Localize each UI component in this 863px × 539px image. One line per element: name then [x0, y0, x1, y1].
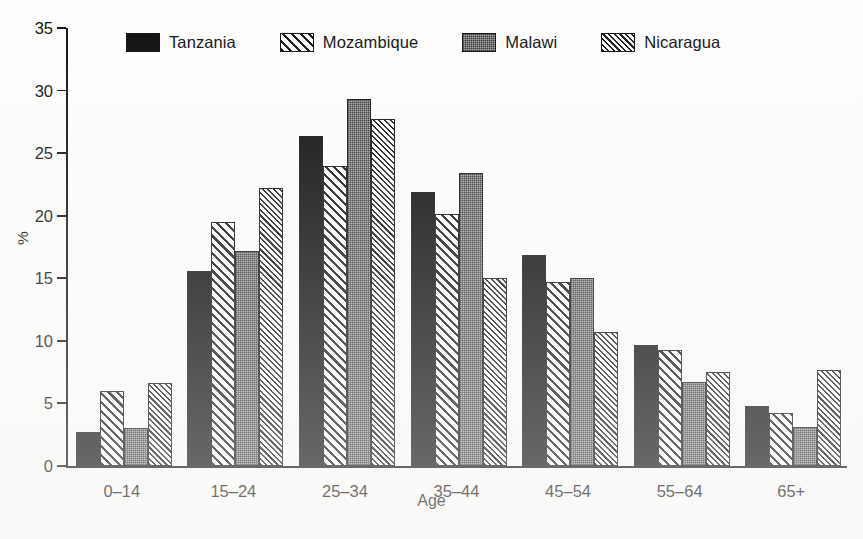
- x-axis-title: Age: [0, 492, 863, 510]
- bar-mozambique: [546, 282, 570, 466]
- y-tick-label: 30: [35, 81, 53, 100]
- bar-malawi: [459, 173, 483, 466]
- bar-malawi: [570, 278, 594, 466]
- bar-mozambique: [323, 166, 347, 466]
- y-tick-mark: [57, 465, 66, 467]
- y-tick-label: 10: [35, 331, 53, 350]
- y-tick-label: 0: [44, 457, 53, 476]
- y-tick-label: 25: [35, 144, 53, 163]
- bar-nicaragua: [371, 119, 395, 466]
- bar-mozambique: [769, 413, 793, 466]
- y-axis-title: %: [14, 231, 32, 245]
- bar-group-25-34: [299, 28, 395, 466]
- bar-nicaragua: [259, 188, 283, 466]
- y-tick-mark: [57, 152, 66, 154]
- y-tick-mark: [57, 402, 66, 404]
- bar-tanzania: [522, 255, 546, 466]
- y-tick-label: 20: [35, 206, 53, 225]
- bar-nicaragua: [594, 332, 618, 466]
- y-tick-mark: [57, 27, 66, 29]
- bar-nicaragua: [706, 372, 730, 466]
- bar-nicaragua: [817, 370, 841, 466]
- bar-tanzania: [299, 136, 323, 466]
- bar-malawi: [347, 99, 371, 466]
- bar-group-45-54: [522, 28, 618, 466]
- bar-group-55-64: [634, 28, 730, 466]
- y-tick-label: 35: [35, 19, 53, 38]
- bar-malawi: [235, 251, 259, 466]
- plot-area: 05101520253035: [66, 28, 847, 466]
- bar-mozambique: [658, 350, 682, 466]
- bar-mozambique: [100, 391, 124, 466]
- bar-malawi: [793, 427, 817, 466]
- y-tick-label: 15: [35, 269, 53, 288]
- x-axis-line: [66, 466, 847, 468]
- bars-layer: [68, 28, 847, 466]
- y-tick-mark: [57, 215, 66, 217]
- bar-tanzania: [634, 345, 658, 466]
- bar-tanzania: [745, 406, 769, 466]
- bar-mozambique: [211, 222, 235, 466]
- bar-tanzania: [187, 271, 211, 466]
- y-tick-mark: [57, 90, 66, 92]
- y-tick-label: 5: [44, 394, 53, 413]
- bar-tanzania: [411, 192, 435, 466]
- bar-malawi: [682, 382, 706, 466]
- bar-group-15-24: [187, 28, 283, 466]
- y-tick-mark: [57, 277, 66, 279]
- bar-tanzania: [76, 432, 100, 466]
- bar-chart-figure: Tanzania Mozambique Malawi Nicaragua % 0…: [0, 0, 863, 539]
- bar-group-65+: [745, 28, 841, 466]
- bar-nicaragua: [483, 278, 507, 466]
- bar-mozambique: [435, 214, 459, 466]
- bar-malawi: [124, 428, 148, 466]
- y-tick-mark: [57, 340, 66, 342]
- bar-nicaragua: [148, 383, 172, 466]
- bar-group-0-14: [76, 28, 172, 466]
- bar-group-35-44: [411, 28, 507, 466]
